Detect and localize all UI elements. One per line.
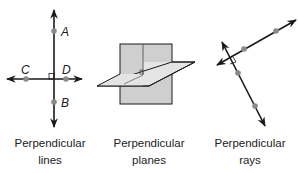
- point-b: [51, 99, 57, 105]
- ray-1-point-near: [241, 46, 247, 52]
- ray-1: [217, 20, 296, 65]
- perpendicular-planes-figure: [97, 44, 195, 104]
- perpendicular-rays-figure: [217, 20, 296, 126]
- point-d: [63, 76, 69, 82]
- ray-1-point-far: [273, 28, 279, 34]
- caption-planes: Perpendicular planes: [99, 135, 199, 169]
- label-a: A: [60, 25, 69, 39]
- horizontal-plane-left: [97, 74, 143, 86]
- perpendicular-lines-figure: A B C D: [7, 10, 82, 127]
- ray-2: [222, 42, 265, 126]
- caption-rays: Perpendicular rays: [200, 135, 298, 169]
- ray-2-point-near: [235, 70, 241, 76]
- label-b: B: [61, 96, 69, 110]
- label-d: D: [62, 63, 71, 77]
- caption-lines: Perpendicular lines: [0, 135, 100, 169]
- point-a: [51, 28, 57, 34]
- ray-2-point-far: [252, 103, 258, 109]
- point-c: [23, 76, 29, 82]
- label-c: C: [21, 63, 30, 77]
